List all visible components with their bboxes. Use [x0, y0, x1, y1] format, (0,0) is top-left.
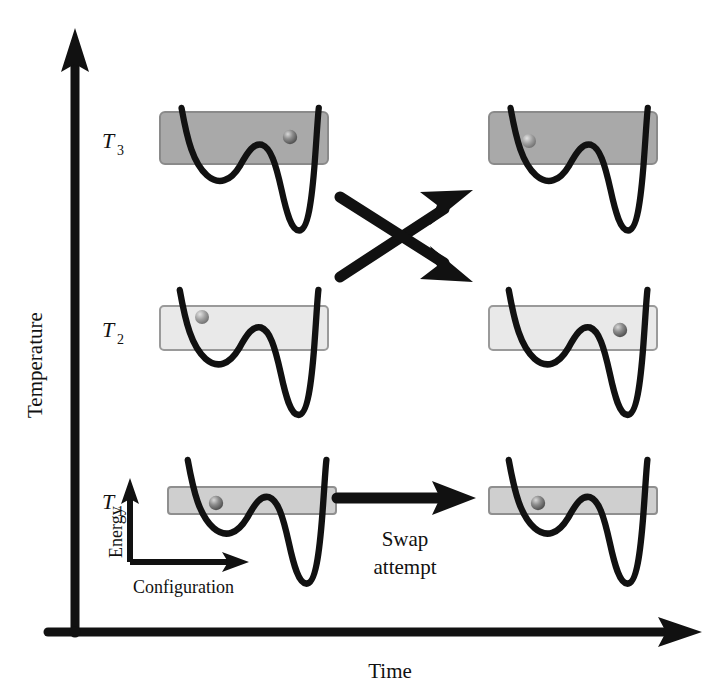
inset-energy-axis-label: Energy [106, 506, 126, 558]
temperature-tick-t3-symbol: T [102, 128, 116, 153]
temperature-tick-t3: T 3 [102, 128, 124, 158]
figure-canvas: Temperature Time T 3 T 2 T 1 [0, 0, 715, 692]
swap-attempt-arrow [337, 481, 476, 515]
panel-t2-after [489, 290, 657, 415]
replica-ball-t3-before [283, 130, 297, 144]
temperature-tick-t2-subscript: 2 [117, 332, 124, 347]
swap-attempt-label-line2: attempt [374, 555, 437, 579]
temperature-tick-t3-subscript: 3 [117, 143, 124, 158]
swap-cross-arrows [340, 190, 473, 282]
axes-origin-marker [70, 627, 81, 638]
parallel-tempering-figure: Temperature Time T 3 T 2 T 1 [0, 0, 715, 692]
time-axis-label: Time [368, 659, 412, 683]
replica-ball-t2-after [613, 323, 627, 337]
replica-ball-t1-after [531, 496, 545, 510]
replica-ball-t1-before [209, 496, 223, 510]
swap-attempt-label-line1: Swap [382, 527, 429, 551]
temperature-axis [61, 28, 89, 632]
panel-t3-after [489, 108, 657, 230]
temperature-axis-label: Temperature [23, 312, 47, 418]
panel-t3-before [160, 108, 328, 230]
temperature-tick-t2: T 2 [102, 317, 124, 347]
time-axis [48, 617, 702, 647]
inset-configuration-axis [130, 552, 249, 572]
panel-t2-before [160, 290, 328, 415]
replica-ball-t2-before [195, 310, 209, 324]
inset-configuration-axis-label: Configuration [133, 577, 234, 597]
panel-t1-before [168, 460, 336, 584]
temperature-tick-t2-symbol: T [102, 317, 116, 342]
temperature-tick-labels: T 3 T 2 T 1 [102, 128, 124, 519]
replica-ball-t3-after [522, 134, 536, 148]
panel-t1-after [489, 460, 657, 584]
